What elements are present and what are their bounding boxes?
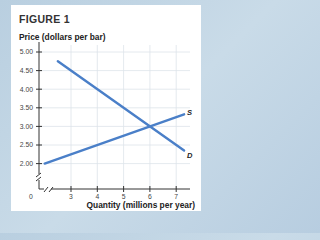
y-tick-label: 2.00	[20, 160, 33, 167]
series: SD	[45, 61, 193, 163]
y-tick-label: 4.00	[20, 86, 33, 93]
x-tick-label: 3	[69, 193, 73, 200]
y-tick-label: 3.00	[20, 123, 33, 130]
series-line-s	[45, 114, 184, 163]
y-tick-label: 3.50	[20, 104, 33, 111]
chart-svg: 2.002.503.003.504.004.505.00345670 SD	[0, 0, 207, 233]
x-tick-label: 7	[174, 193, 178, 200]
grid	[39, 45, 190, 189]
series-label-d: D	[187, 151, 193, 160]
series-label-s: S	[187, 108, 192, 117]
x-tick-label: 6	[148, 193, 152, 200]
y-tick-label: 5.00	[20, 48, 33, 55]
x-tick-label: 5	[122, 193, 126, 200]
origin-label: 0	[29, 193, 33, 200]
axes	[36, 42, 190, 192]
y-tick-label: 4.50	[20, 67, 33, 74]
x-tick-label: 4	[95, 193, 99, 200]
y-tick-label: 2.50	[20, 141, 33, 148]
y-axis-break-icon	[36, 172, 41, 189]
